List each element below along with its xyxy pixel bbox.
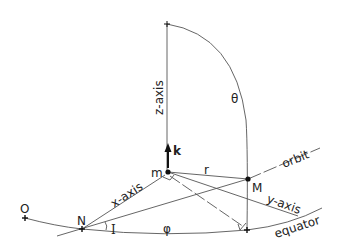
spherical-coordinate-diagram: z-axis θ k m r M x-axis y-axis orbit equ… — [0, 0, 338, 252]
theta-label: θ — [231, 92, 238, 106]
point-M-icon — [245, 176, 250, 181]
phi-label: φ — [163, 222, 171, 236]
z-axis-label: z-axis — [152, 80, 166, 115]
O-label: O — [20, 202, 29, 216]
angle-I-arc — [105, 222, 107, 230]
N-label: N — [77, 214, 86, 228]
point-m-icon — [165, 169, 170, 174]
top-point-icon — [164, 21, 170, 27]
m-label: m — [151, 166, 163, 180]
orbit-label: orbit — [280, 147, 311, 171]
r-label: r — [204, 163, 209, 177]
M-label: M — [252, 181, 262, 195]
I-label: I — [111, 223, 116, 237]
k-label: k — [173, 144, 182, 158]
y-axis-label: y-axis — [265, 192, 303, 217]
k-arrowhead-icon — [165, 143, 172, 152]
theta-arc — [167, 24, 247, 230]
foot-point-icon — [244, 227, 250, 233]
equator-label: equator — [273, 213, 322, 241]
x-axis-label: x-axis — [108, 179, 145, 210]
